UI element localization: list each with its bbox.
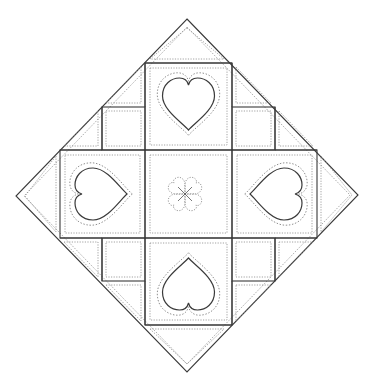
stitch-lines — [25, 28, 352, 364]
heart-bottom — [157, 253, 219, 315]
heart-left — [70, 163, 132, 225]
heart-right — [245, 163, 307, 225]
quilt-diagram — [0, 0, 380, 381]
clover-motif — [166, 175, 204, 213]
heart-top — [157, 73, 219, 135]
